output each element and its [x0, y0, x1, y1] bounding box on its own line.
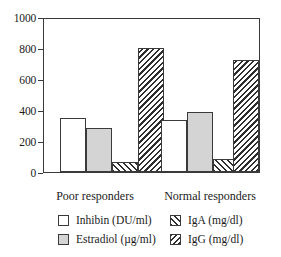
legend-label-igg: IgG (mg/dl)	[188, 233, 243, 245]
legend: Inhibin (DU/ml) Estradiol (µg/ml) IgA (m…	[58, 211, 268, 251]
legend-item-estradiol: Estradiol (µg/ml)	[58, 230, 156, 248]
legend-label-iga: IgA (mg/dl)	[188, 214, 243, 226]
bar-poor-inhibin	[60, 118, 86, 172]
legend-label-estradiol: Estradiol (µg/ml)	[76, 233, 156, 245]
y-tick-label-1000: 1000	[14, 12, 36, 24]
y-axis: 1000 800 600 400 200 0	[0, 0, 43, 191]
legend-swatch-estradiol	[58, 234, 69, 245]
y-tick-label-400: 400	[19, 105, 36, 117]
bar-chart-figure: 1000 800 600 400 200 0	[0, 0, 281, 257]
bar-poor-iga	[112, 162, 138, 172]
legend-swatch-inhibin	[58, 215, 69, 226]
legend-label-inhibin: Inhibin (DU/ml)	[76, 214, 152, 226]
x-label-normal-responders: Normal responders	[150, 189, 270, 204]
bar-normal-inhibin	[161, 120, 187, 172]
legend-item-iga: IgA (mg/dl)	[170, 211, 243, 229]
legend-item-igg: IgG (mg/dl)	[170, 230, 243, 248]
bar-normal-igg	[233, 60, 259, 172]
y-tick-label-800: 800	[19, 43, 36, 55]
y-tick-label-600: 600	[19, 74, 36, 86]
y-tick-label-0: 0	[30, 167, 36, 179]
y-tick-label-200: 200	[19, 136, 36, 148]
legend-item-inhibin: Inhibin (DU/ml)	[58, 211, 152, 229]
plot-area	[43, 18, 260, 173]
bar-normal-estradiol	[187, 112, 213, 172]
bar-poor-estradiol	[86, 128, 112, 172]
legend-swatch-iga	[170, 215, 181, 226]
x-label-poor-responders: Poor responders	[40, 189, 150, 204]
legend-swatch-igg	[170, 234, 181, 245]
